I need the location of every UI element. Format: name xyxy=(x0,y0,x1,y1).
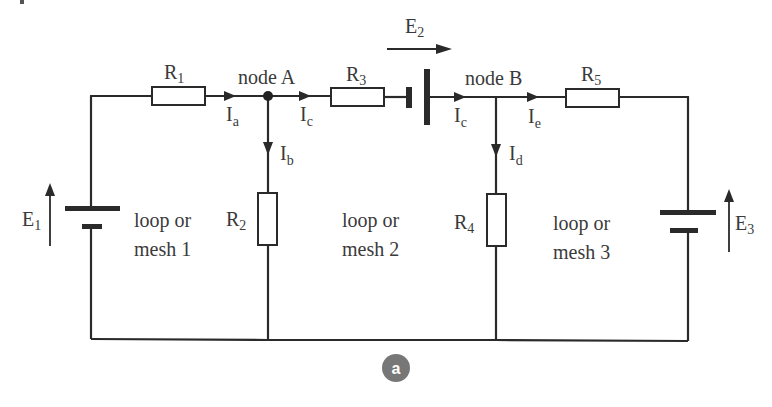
arrow-e3-icon xyxy=(724,189,734,202)
battery-e3 xyxy=(660,210,716,233)
label-mesh-2-line1: loop or xyxy=(342,209,400,232)
label-ic-2: Ic xyxy=(454,104,467,130)
battery-e2 xyxy=(406,69,430,125)
label-r5: R5 xyxy=(581,63,601,88)
resistor-r5 xyxy=(566,89,619,107)
label-r3: R3 xyxy=(346,63,366,88)
resistor-r4 xyxy=(487,194,506,246)
label-ie: Ie xyxy=(528,105,541,131)
arrow-ie-icon xyxy=(527,92,539,102)
label-e1: E1 xyxy=(22,208,41,233)
arrow-ib-icon xyxy=(263,142,273,155)
label-mesh-3-line1: loop or xyxy=(553,212,611,235)
clipped-glyph-fragment xyxy=(20,0,24,4)
label-e2: E2 xyxy=(405,15,424,40)
label-mesh-3-line2: mesh 3 xyxy=(553,241,610,263)
resistor-r2 xyxy=(258,193,277,245)
label-mesh-1-line1: loop or xyxy=(134,209,192,232)
label-r1: R1 xyxy=(164,61,184,86)
arrow-ic-icon xyxy=(299,91,311,101)
label-mesh-2-line2: mesh 2 xyxy=(342,238,399,260)
arrow-ic2-icon xyxy=(454,92,466,102)
resistor-r1 xyxy=(152,87,205,105)
label-e3: E3 xyxy=(735,212,754,237)
arrow-id-icon xyxy=(491,144,501,157)
label-id: Id xyxy=(509,142,523,168)
caption-badge-letter: a xyxy=(392,360,401,377)
label-ib: Ib xyxy=(280,142,294,168)
label-node-b: node B xyxy=(465,67,522,89)
resistor-r3 xyxy=(331,88,384,106)
label-ic: Ic xyxy=(300,103,313,129)
arrow-ia-icon xyxy=(224,91,236,101)
label-r4: R4 xyxy=(454,211,474,236)
circuit-diagram: R1 R3 R5 R2 R4 E1 E2 E3 node A node B Ia… xyxy=(0,0,772,407)
label-mesh-1-line2: mesh 1 xyxy=(134,238,191,260)
label-r2: R2 xyxy=(226,208,246,233)
battery-e1 xyxy=(65,206,120,229)
caption-badge: a xyxy=(382,354,410,382)
arrow-e2-icon xyxy=(436,44,452,54)
arrow-e1-icon xyxy=(45,183,55,196)
label-node-a: node A xyxy=(238,66,296,88)
label-ia: Ia xyxy=(226,103,240,129)
node-a-dot xyxy=(263,91,273,101)
